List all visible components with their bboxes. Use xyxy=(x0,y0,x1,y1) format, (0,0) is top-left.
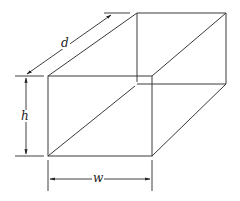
depth-label: d xyxy=(60,37,70,49)
back-face xyxy=(137,13,226,84)
width-label: w xyxy=(92,172,104,184)
depth-dimension xyxy=(27,13,130,74)
box-diagram: d h w xyxy=(0,0,240,201)
box-drawing xyxy=(0,0,240,201)
height-label: h xyxy=(20,110,30,122)
